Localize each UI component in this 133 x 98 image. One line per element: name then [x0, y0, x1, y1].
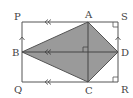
label-p: P: [14, 11, 21, 22]
label-c: C: [85, 85, 93, 96]
right-angle-icon-r: [113, 77, 118, 82]
label-d: D: [121, 47, 129, 58]
label-r: R: [121, 84, 129, 95]
label-b: B: [12, 47, 19, 58]
right-angle-icon-s: [113, 22, 118, 27]
label-a: A: [84, 9, 93, 20]
label-q: Q: [14, 84, 22, 95]
kite-rectangle-diagram: P A S B D Q C R: [0, 0, 133, 98]
label-s: S: [121, 11, 128, 22]
